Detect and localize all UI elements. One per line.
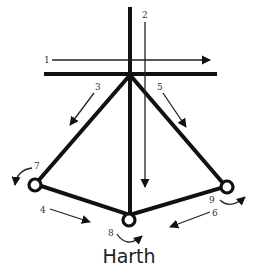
label-8: 8 <box>108 228 114 238</box>
left-leg <box>39 75 130 180</box>
harth-diagram: 1 2 3 5 4 6 7 8 9 Harth <box>0 0 255 275</box>
arrow-labels: 1 2 3 5 4 6 7 8 9 <box>34 10 218 238</box>
label-3: 3 <box>95 82 101 92</box>
right-node <box>221 181 233 193</box>
arrow-6-icon <box>170 212 210 227</box>
curved-arrow-8-icon <box>117 234 142 242</box>
diagram-title: Harth <box>102 245 155 267</box>
label-2: 2 <box>142 10 148 20</box>
curved-arrow-9-icon <box>220 197 245 204</box>
arrow-5-icon <box>163 93 186 127</box>
arrow-4-icon <box>50 209 90 222</box>
label-9: 9 <box>209 195 215 205</box>
label-7: 7 <box>34 161 40 171</box>
base-right <box>133 188 221 214</box>
right-leg <box>130 75 222 182</box>
structure <box>29 9 233 226</box>
left-node <box>29 179 41 191</box>
bottom-node <box>123 214 135 226</box>
label-4: 4 <box>40 205 46 215</box>
label-6: 6 <box>212 208 218 218</box>
label-1: 1 <box>44 55 50 65</box>
label-5: 5 <box>157 82 163 92</box>
